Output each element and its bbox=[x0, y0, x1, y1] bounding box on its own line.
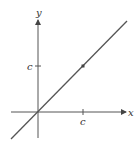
y-tick-label: c bbox=[27, 61, 33, 72]
x-tick-label: c bbox=[80, 116, 86, 127]
x-axis-label: x bbox=[128, 107, 134, 118]
y-axis-label: y bbox=[35, 7, 42, 18]
diagram-canvas: y x c c bbox=[0, 0, 139, 145]
line-y-equals-x bbox=[11, 21, 127, 139]
point-c-c bbox=[82, 65, 85, 68]
